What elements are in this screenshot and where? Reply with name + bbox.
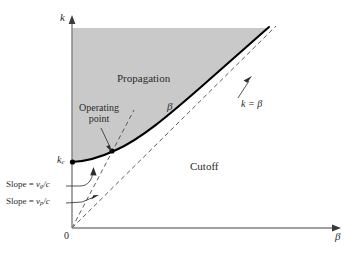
cutoff-wavenumber-subscript: c — [61, 158, 64, 165]
operating-point-label-line2: point — [62, 114, 136, 125]
slope-group-suffix: /c — [43, 179, 50, 189]
slope-phase-suffix: /c — [43, 196, 50, 206]
slope-group-leader-arrowhead — [90, 167, 96, 176]
y-axis-arrowhead — [69, 15, 76, 24]
slope-phase-leader-arrowhead — [91, 195, 99, 200]
origin-label: 0 — [64, 231, 69, 242]
propagation-region-label: Propagation — [117, 73, 170, 85]
light-line-leader-line — [238, 81, 249, 98]
slope-group-velocity-label: Slope = vg/c — [6, 180, 50, 190]
plot-canvas — [0, 0, 360, 254]
light-line-label: k = β — [241, 99, 262, 110]
propagation-shaded-region — [72, 28, 268, 162]
slope-phase-velocity-label: Slope = vp/c — [6, 197, 50, 207]
cutoff-wavenumber-marker — [70, 159, 75, 164]
kbeta-dispersion-figure: k β 0 kc Propagation Cutoff β k = β Oper… — [0, 0, 360, 254]
slope-phase-prefix: Slope = — [6, 196, 36, 206]
x-axis-label: β — [335, 231, 340, 243]
operating-point-label-line1: Operating — [62, 103, 136, 114]
operating-point-label: Operating point — [62, 103, 136, 124]
cutoff-region-label: Cutoff — [190, 161, 219, 173]
light-line-leader-arrowhead — [244, 76, 252, 83]
slope-phase-text-connector — [66, 202, 82, 203]
slope-group-prefix: Slope = — [6, 179, 36, 189]
cutoff-wavenumber-label: kc — [57, 155, 64, 166]
beta-curve-label: β — [167, 101, 172, 113]
y-axis-label: k — [60, 12, 65, 24]
